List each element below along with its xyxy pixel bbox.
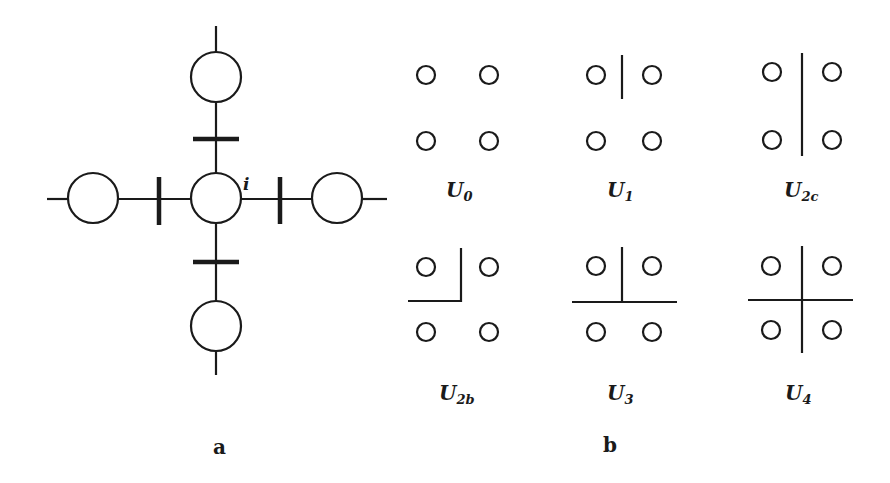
config-u2b [408,248,498,341]
node-top [191,52,241,102]
site-icon [480,132,498,150]
site-icon [417,66,435,84]
panel-b-label: b [603,433,617,457]
diagram-canvas: i a [0,0,890,483]
site-icon [480,258,498,276]
label-u2b: U2b [439,381,475,407]
label-u4: U4 [785,381,812,407]
site-icon [643,257,661,275]
site-icon [417,323,435,341]
site-icon [643,132,661,150]
config-u0 [417,66,498,150]
label-u2c: U2c [784,178,818,204]
node-center-i [191,173,241,223]
site-icon [762,321,780,339]
site-icon [480,66,498,84]
label-u1: U1 [607,178,634,204]
site-icon [823,63,841,81]
config-u2c [763,53,841,156]
site-icon [823,257,841,275]
site-icon [643,66,661,84]
center-node-label: i [243,174,249,194]
panel-a-lattice [47,26,387,375]
site-icon [587,66,605,84]
label-u3: U3 [607,381,634,407]
config-u3 [572,247,677,341]
node-bottom [191,301,241,351]
label-u0: U0 [446,178,473,204]
panel-a-label: a [213,435,226,459]
site-icon [480,323,498,341]
config-u4 [748,246,853,353]
site-icon [823,321,841,339]
site-icon [587,132,605,150]
site-icon [823,131,841,149]
node-right [312,173,362,223]
node-left [68,173,118,223]
site-icon [762,257,780,275]
wall-corner [408,248,461,301]
site-icon [587,323,605,341]
bond-marks [159,139,280,262]
site-icon [763,63,781,81]
site-icon [587,257,605,275]
site-icon [417,258,435,276]
site-icon [643,323,661,341]
site-icon [417,132,435,150]
config-u1 [587,55,661,150]
site-icon [763,131,781,149]
